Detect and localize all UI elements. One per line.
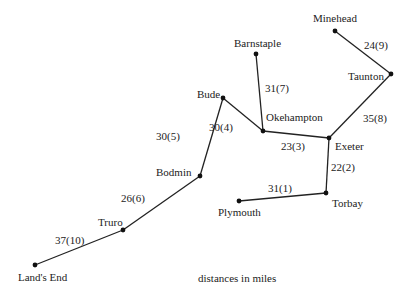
edge-exeter-torbay xyxy=(326,138,329,193)
edge-bude-bodmin xyxy=(200,98,223,176)
label-torbay: Torbay xyxy=(332,198,363,209)
label-okehampton: Okehampton xyxy=(266,112,323,123)
weight-bude-okehampton: 30(4) xyxy=(209,122,233,133)
label-plymouth: Plymouth xyxy=(218,207,261,218)
weight-bodmin-truro: 26(6) xyxy=(121,193,145,204)
caption: distances in miles xyxy=(198,273,276,284)
edge-minehead-taunton xyxy=(335,31,391,74)
node-taunton xyxy=(389,72,394,77)
label-bodmin: Bodmin xyxy=(156,167,191,178)
edge-okehampton-exeter xyxy=(263,131,329,138)
weight-okehampton-exeter: 23(3) xyxy=(281,141,305,152)
label-truro: Truro xyxy=(98,217,123,228)
weight-exeter-torbay: 22(2) xyxy=(331,162,355,173)
node-bude xyxy=(221,96,226,101)
weight-barnstaple-okehampton: 31(7) xyxy=(265,83,289,94)
label-landsend: Land's End xyxy=(18,272,67,283)
edge-torbay-plymouth xyxy=(239,193,326,201)
node-torbay xyxy=(324,191,329,196)
weight-torbay-plymouth: 31(1) xyxy=(268,183,292,194)
label-exeter: Exeter xyxy=(335,141,364,152)
node-landsend xyxy=(33,263,38,268)
node-barnstaple xyxy=(254,52,259,57)
node-plymouth xyxy=(237,199,242,204)
weight-bude-bodmin: 30(5) xyxy=(156,131,180,142)
node-exeter xyxy=(327,136,332,141)
weight-truro-landsend: 37(10) xyxy=(55,235,84,246)
label-barnstaple: Barnstaple xyxy=(234,38,281,49)
weight-minehead-taunton: 24(9) xyxy=(364,40,388,51)
label-taunton: Taunton xyxy=(348,71,384,82)
edge-barnstaple-okehampton xyxy=(256,54,263,131)
node-minehead xyxy=(333,29,338,34)
weight-taunton-exeter: 35(8) xyxy=(363,113,387,124)
node-truro xyxy=(121,228,126,233)
node-bodmin xyxy=(198,174,203,179)
label-minehead: Minehead xyxy=(313,13,357,24)
node-okehampton xyxy=(261,129,266,134)
label-bude: Bude xyxy=(197,89,220,100)
edge-taunton-exeter xyxy=(329,74,391,138)
